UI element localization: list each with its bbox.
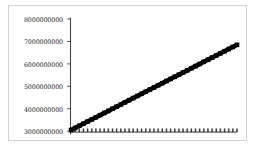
rising-series-marker [102, 111, 107, 116]
rising-series-marker [189, 66, 194, 71]
rising-series-marker [185, 68, 190, 73]
rising-series-marker [235, 43, 240, 48]
rising-series-marker [202, 60, 207, 65]
rising-series-marker [206, 57, 211, 62]
rising-series-marker [177, 72, 182, 77]
rising-series-marker [110, 106, 115, 111]
rising-series-marker [226, 47, 231, 52]
rising-series-marker [222, 49, 227, 54]
rising-series-marker [98, 113, 103, 118]
rising-series-marker [89, 117, 94, 122]
rising-series-marker [181, 70, 186, 75]
rising-series-marker [94, 115, 99, 120]
rising-series-marker [106, 109, 111, 114]
rising-series-marker [123, 100, 128, 105]
rising-series-marker [143, 89, 148, 94]
rising-series-marker [156, 83, 161, 88]
rising-series-marker [218, 51, 223, 56]
chart-figure: 3000000000400000000050000000006000000000… [0, 0, 257, 150]
rising-series-marker [81, 121, 86, 126]
rising-series-marker [131, 96, 136, 101]
data-series-flat [71, 128, 237, 132]
rising-series-marker [197, 62, 202, 67]
rising-series-marker [77, 124, 82, 129]
rising-series-marker [214, 53, 219, 58]
plot-area [0, 0, 257, 150]
rising-series-marker [73, 126, 78, 131]
data-series-rising [69, 43, 240, 133]
rising-series-marker [172, 74, 177, 79]
rising-series-marker [231, 45, 236, 50]
rising-series-marker [114, 104, 119, 109]
rising-series-marker [160, 81, 165, 86]
rising-series-marker [69, 128, 74, 133]
rising-series-marker [127, 98, 132, 103]
rising-series-marker [210, 55, 215, 60]
rising-series-marker [164, 79, 169, 84]
rising-series-marker [139, 92, 144, 97]
rising-series-marker [193, 64, 198, 69]
rising-series-marker [152, 85, 157, 90]
rising-series-marker [85, 119, 90, 124]
rising-series-marker [148, 87, 153, 92]
rising-series-marker [119, 102, 124, 107]
rising-series-marker [168, 77, 173, 82]
rising-series-marker [135, 94, 140, 99]
